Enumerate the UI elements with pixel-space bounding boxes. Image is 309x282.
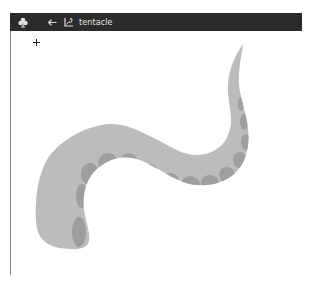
tentacle-body — [36, 44, 249, 249]
app-window: tentacle — [10, 13, 302, 275]
back-arrow-icon[interactable] — [46, 16, 58, 28]
window-title: tentacle — [79, 18, 113, 27]
tentacle-drawing — [11, 31, 302, 275]
tentacle-suckers — [72, 97, 251, 247]
drawing-canvas[interactable] — [11, 31, 302, 275]
club-icon[interactable] — [17, 16, 29, 28]
title-bar: tentacle — [10, 13, 302, 31]
image-chart-icon — [64, 17, 74, 27]
crosshair-cursor — [33, 39, 40, 46]
